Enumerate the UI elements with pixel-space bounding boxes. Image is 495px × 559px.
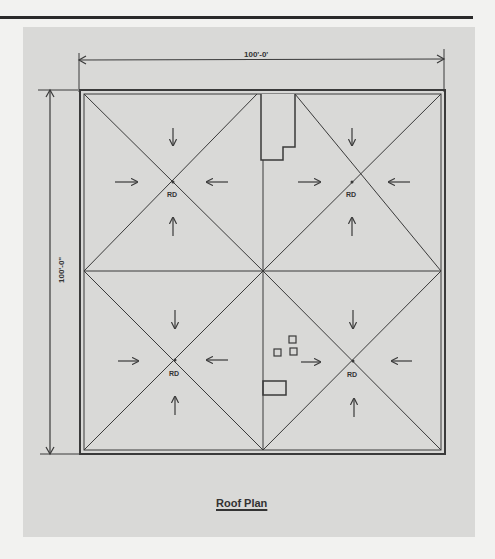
drawing-title: Roof Plan bbox=[216, 497, 267, 509]
width-dimension-label: 100'-0' bbox=[244, 50, 268, 59]
roof-drain-icon bbox=[172, 181, 175, 184]
roof-plan-drawing: 100'-0' 100'-0" RD RD RD RD bbox=[0, 0, 495, 559]
roof-drain-label: RD bbox=[169, 370, 179, 377]
roof-vent bbox=[290, 348, 297, 355]
roof-penthouse-outline bbox=[261, 94, 295, 160]
roof-drain-label: RD bbox=[167, 191, 177, 198]
roof-drain-icon bbox=[351, 181, 354, 184]
roof-drain-icon bbox=[352, 360, 355, 363]
roof-vent bbox=[289, 336, 296, 343]
roof-drain-label: RD bbox=[346, 191, 356, 198]
roof-vent bbox=[274, 349, 281, 356]
height-dimension-label: 100'-0" bbox=[57, 257, 66, 283]
roof-drain-label: RD bbox=[347, 371, 357, 378]
roof-hatch bbox=[263, 381, 286, 395]
roof-drain-icon bbox=[174, 359, 177, 362]
